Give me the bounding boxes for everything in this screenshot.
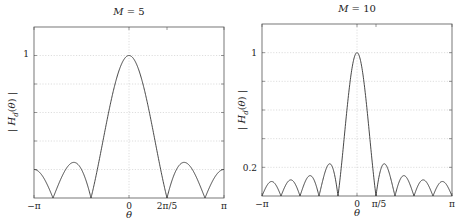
plot-area (0, 0, 464, 223)
y-tick-label: 0.2 (243, 163, 257, 173)
chart-panel-m10: M = 10 0.2 1 −π 0 π/5 π θ | Hd(θ) | (0, 0, 464, 223)
y-tick-label: 1 (251, 48, 257, 58)
y-axis-label-text: | Hd(θ) | (236, 90, 247, 130)
magnitude-curve (262, 53, 452, 196)
x-tick-label: π/5 (372, 199, 387, 209)
x-axis-label: θ (354, 207, 360, 218)
x-tick-label: π (449, 199, 455, 209)
y-axis-label: | Hd(θ) | (236, 90, 250, 130)
x-tick-label: −π (255, 199, 268, 209)
